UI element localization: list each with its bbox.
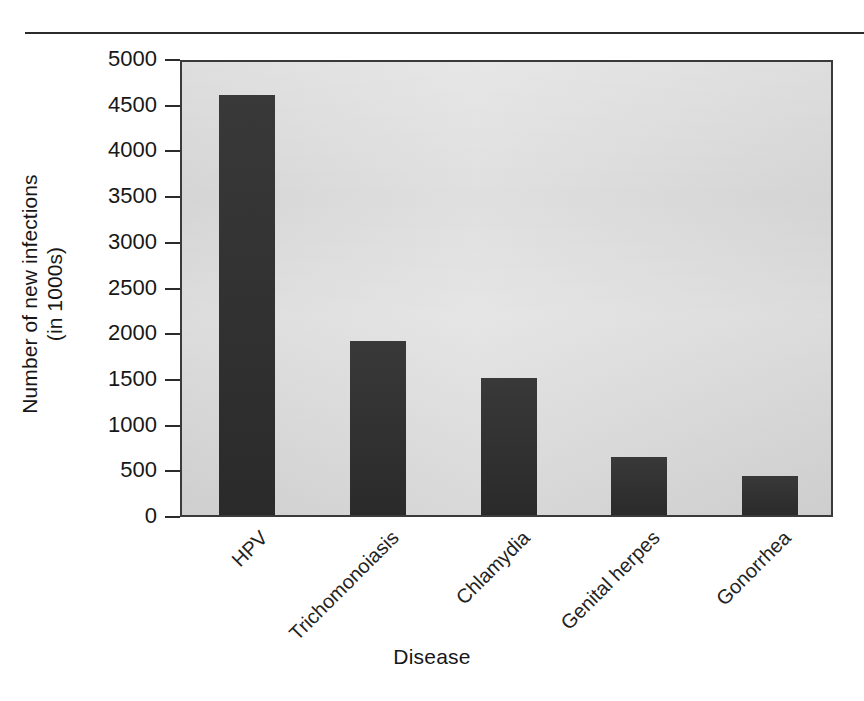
y-axis-tick-mark [165,470,180,472]
y-axis-tick-group: 0500100015002000250030003500400045005000 [0,0,180,701]
x-axis-tick-label: Trichomonoiasis [285,527,402,644]
bar-group [182,62,831,515]
x-axis-tick-label: HPV [228,527,271,570]
y-axis-tick-label: 3000 [108,231,157,253]
x-axis-tick-label: Chlamydia [452,527,533,608]
y-axis-tick-mark [165,288,180,290]
bar [742,476,798,515]
y-axis-tick-label: 5000 [108,48,157,70]
y-axis-tick-label: 4000 [108,139,157,161]
y-axis-tick-label: 2500 [108,277,157,299]
y-axis-tick-mark [165,425,180,427]
x-axis-tick-label: Genital herpes [557,527,663,633]
y-axis-tick-mark [165,150,180,152]
bar-chart-figure: Number of new infections (in 1000s) 0500… [0,0,864,701]
bar [219,95,275,515]
y-axis-tick-mark [165,516,180,518]
y-axis-tick-mark [165,242,180,244]
bar [481,378,537,515]
x-axis-title: Disease [0,645,864,669]
y-axis-tick-label: 3500 [108,185,157,207]
y-axis-tick-label: 2000 [108,322,157,344]
y-axis-tick-mark [165,105,180,107]
x-axis-tick-label-group: HPVTrichomonoiasisChlamydiaGenital herpe… [180,517,833,647]
y-axis-tick-mark [165,196,180,198]
bar [350,341,406,515]
y-axis-tick-label: 1500 [108,368,157,390]
y-axis-tick-label: 0 [145,505,157,527]
y-axis-tick-mark [165,379,180,381]
x-axis-tick-label: Gonorrhea [712,527,794,609]
bar [611,457,667,515]
y-axis-tick-label: 500 [120,459,157,481]
y-axis-tick-label: 1000 [108,414,157,436]
y-axis-tick-mark [165,59,180,61]
y-axis-tick-label: 4500 [108,94,157,116]
plot-area [180,60,833,517]
y-axis-tick-mark [165,333,180,335]
